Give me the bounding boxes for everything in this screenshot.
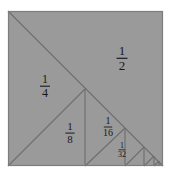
fraction-numerator: 1	[42, 72, 48, 86]
fraction-numerator: 1	[120, 141, 124, 150]
geometric-series-figure: 121418116132	[0, 0, 174, 174]
figure-canvas: 121418116132	[0, 0, 174, 174]
fraction-numerator: 1	[67, 120, 73, 132]
fraction-denominator: 32	[118, 150, 126, 159]
fraction-numerator: 1	[119, 43, 126, 58]
fraction-denominator: 4	[42, 86, 48, 100]
fraction-denominator: 8	[67, 133, 73, 145]
fraction-numerator: 1	[106, 115, 111, 126]
fraction-denominator: 2	[119, 58, 126, 73]
fraction-denominator: 16	[103, 127, 113, 138]
